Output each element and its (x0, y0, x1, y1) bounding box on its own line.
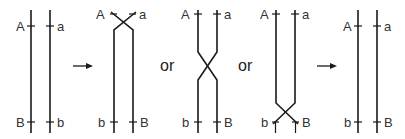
label-b: b (57, 115, 64, 130)
label-B: B (224, 115, 233, 130)
label-B: B (302, 115, 311, 130)
label-a: a (57, 19, 65, 34)
label-A: A (260, 7, 269, 22)
label-A: A (16, 19, 25, 34)
label-b: b (98, 115, 105, 130)
label-a: a (139, 7, 147, 22)
or-label: or (160, 57, 175, 74)
label-B: B (16, 115, 25, 130)
label-B: B (140, 115, 149, 130)
label-b: b (182, 115, 189, 130)
panel-recombinant: A a b B (343, 10, 393, 133)
chromatid-right (198, 10, 217, 133)
arrow-right-icon (73, 63, 93, 69)
label-b: b (344, 115, 351, 130)
label-A: A (96, 7, 105, 22)
label-a: a (302, 7, 310, 22)
panel-crossover-middle: A a b B (181, 7, 233, 133)
label-a: a (384, 19, 392, 34)
label-A: A (181, 7, 190, 22)
chromatid-left (198, 10, 217, 133)
panel-parental: A a B b (16, 10, 65, 133)
or-label: or (238, 57, 253, 74)
label-b: b (261, 115, 268, 130)
panel-crossover-bottom: A a b B (260, 7, 311, 133)
label-a: a (224, 7, 232, 22)
label-A: A (343, 19, 352, 34)
arrow-right-icon (317, 63, 337, 69)
crossing-over-diagram: A a B b A a b B or A a b B or (0, 0, 405, 139)
panel-crossover-top: A a b B (96, 7, 149, 133)
label-B: B (384, 115, 393, 130)
